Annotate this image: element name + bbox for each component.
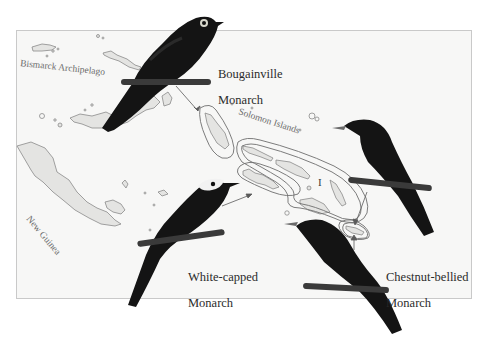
monarch-distribution-figure: Bismarck Archipelago Solomon Islands New… (0, 0, 490, 352)
label-white-capped-monarch: White-capped Monarch (188, 258, 258, 310)
label-bougainville-monarch: Bougainville Monarch (218, 55, 283, 107)
bird-bougainville-monarch (102, 17, 224, 132)
perch-branch (121, 79, 211, 85)
label-chestnut-bellied-monarch: Chestnut-bellied Monarch (386, 258, 469, 310)
eye (211, 182, 215, 186)
bird-chestnut-bellied-monarch-right (332, 120, 434, 236)
bird-chestnut-bellied-monarch-lower (284, 220, 402, 334)
